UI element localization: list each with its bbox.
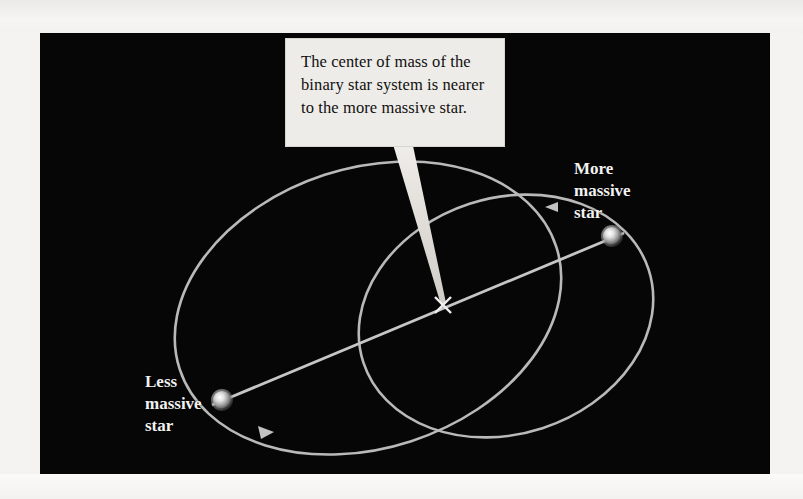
less-massive-star <box>211 389 233 411</box>
more-massive-star-label: More massive star <box>574 158 631 224</box>
paper-bottom-margin <box>0 474 803 499</box>
orbit-arrow-less-massive <box>258 426 274 439</box>
orbit-arrow-more-massive <box>545 202 558 212</box>
more-massive-star <box>601 225 623 247</box>
less-massive-star-orbit <box>136 114 599 474</box>
paper-top-margin <box>0 0 803 33</box>
figure-page: The center of mass of the binary star sy… <box>0 0 803 499</box>
callout-pointer-tail <box>392 141 446 305</box>
callout-box: The center of mass of the binary star sy… <box>285 38 505 147</box>
star-separation-line <box>212 233 624 405</box>
less-massive-star-label: Less massive star <box>145 371 202 437</box>
binary-star-diagram-panel: The center of mass of the binary star sy… <box>40 33 770 474</box>
callout-text: The center of mass of the binary star sy… <box>301 50 491 119</box>
more-massive-star-orbit <box>327 157 685 474</box>
